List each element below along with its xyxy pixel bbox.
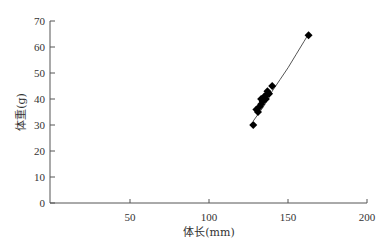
x-tick-label: 100 xyxy=(201,211,218,223)
data-points xyxy=(249,31,312,129)
axis-labels: 01020304050607050100150200体长(mm)体重(g) xyxy=(14,15,376,239)
scatter-chart: 01020304050607050100150200体长(mm)体重(g) xyxy=(0,0,389,248)
y-tick-label: 10 xyxy=(34,171,46,183)
y-tick-label: 0 xyxy=(40,197,46,209)
y-tick-label: 20 xyxy=(34,145,46,157)
y-tick-label: 40 xyxy=(34,93,46,105)
x-tick-label: 200 xyxy=(359,211,376,223)
diamond-marker xyxy=(268,82,276,90)
axes xyxy=(50,21,367,203)
y-tick-label: 50 xyxy=(34,67,46,79)
x-axis-title: 体长(mm) xyxy=(183,225,234,239)
y-tick-label: 70 xyxy=(34,15,46,27)
y-tick-label: 30 xyxy=(34,119,46,131)
diamond-marker xyxy=(249,121,257,129)
x-tick-label: 150 xyxy=(280,211,297,223)
y-tick-label: 60 xyxy=(34,41,46,53)
y-axis-title: 体重(g) xyxy=(14,93,28,131)
x-tick-label: 50 xyxy=(125,211,137,223)
